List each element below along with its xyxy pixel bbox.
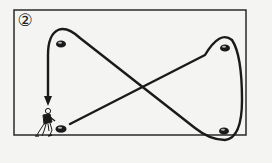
player-icon: [35, 108, 55, 136]
step-number-label: ②: [15, 10, 35, 30]
drill-diagram: ②: [0, 0, 272, 163]
cone-bottom-right: [219, 127, 229, 134]
cone-bottom-left: [56, 125, 67, 133]
figure-eight-path: [48, 29, 242, 140]
cone-top-left: [56, 40, 66, 47]
diagram-canvas: [0, 0, 272, 163]
direction-arrow-icon: [44, 96, 52, 106]
cone-top-right: [220, 44, 230, 51]
